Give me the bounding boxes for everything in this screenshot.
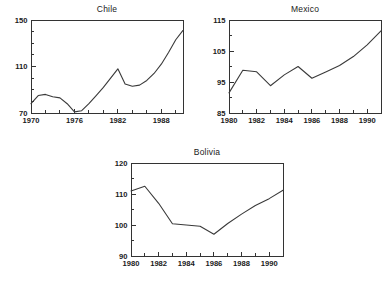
x-tick-label-bolivia-1984: 1984 xyxy=(178,259,196,268)
chart-svg-mexico: Mexico8595105115198019821984198619881990 xyxy=(196,0,392,143)
y-tick-label-bolivia-120: 120 xyxy=(115,159,128,168)
y-tick-label-chile-150: 150 xyxy=(15,16,28,25)
plot-frame-bolivia xyxy=(131,163,283,256)
chart-title-bolivia: Bolivia xyxy=(194,147,221,157)
x-tick-label-bolivia-1988: 1988 xyxy=(233,259,250,268)
data-series-chile xyxy=(31,30,183,111)
y-tick-label-bolivia-100: 100 xyxy=(115,221,128,230)
y-tick-label-chile-110: 110 xyxy=(15,62,27,71)
chart-svg-chile: Chile701101501970197619821988 xyxy=(0,0,196,143)
x-tick-label-mexico-1986: 1986 xyxy=(303,116,320,125)
x-tick-label-chile-1970: 1970 xyxy=(23,116,40,125)
x-tick-label-mexico-1984: 1984 xyxy=(276,116,294,125)
plot-frame-mexico xyxy=(229,20,381,113)
y-tick-label-bolivia-110: 110 xyxy=(115,190,127,199)
x-tick-label-chile-1988: 1988 xyxy=(153,116,170,125)
y-tick-label-mexico-105: 105 xyxy=(213,47,226,56)
plot-frame-chile xyxy=(31,20,183,113)
x-tick-label-bolivia-1990: 1990 xyxy=(261,259,278,268)
data-series-bolivia xyxy=(131,186,283,234)
x-tick-label-chile-1982: 1982 xyxy=(109,116,126,125)
x-tick-label-mexico-1990: 1990 xyxy=(359,116,376,125)
x-tick-label-bolivia-1986: 1986 xyxy=(205,259,222,268)
chart-panel-mexico: Mexico8595105115198019821984198619881990 xyxy=(196,0,392,143)
y-tick-label-mexico-115: 115 xyxy=(213,16,226,25)
chart-title-chile: Chile xyxy=(97,4,117,14)
multi-panel-line-chart-figure: Chile701101501970197619821988 Mexico8595… xyxy=(0,0,392,287)
chart-panel-chile: Chile701101501970197619821988 xyxy=(0,0,196,143)
data-series-mexico xyxy=(229,31,381,93)
x-tick-label-bolivia-1982: 1982 xyxy=(150,259,167,268)
y-tick-label-mexico-95: 95 xyxy=(217,78,226,87)
chart-panel-bolivia: Bolivia901001101201980198219841986198819… xyxy=(98,143,294,287)
x-tick-label-bolivia-1980: 1980 xyxy=(123,259,140,268)
x-tick-label-mexico-1982: 1982 xyxy=(248,116,265,125)
x-tick-label-mexico-1988: 1988 xyxy=(331,116,348,125)
x-tick-label-chile-1976: 1976 xyxy=(66,116,83,125)
x-tick-label-mexico-1980: 1980 xyxy=(221,116,238,125)
chart-title-mexico: Mexico xyxy=(291,4,319,14)
chart-svg-bolivia: Bolivia901001101201980198219841986198819… xyxy=(98,143,294,287)
